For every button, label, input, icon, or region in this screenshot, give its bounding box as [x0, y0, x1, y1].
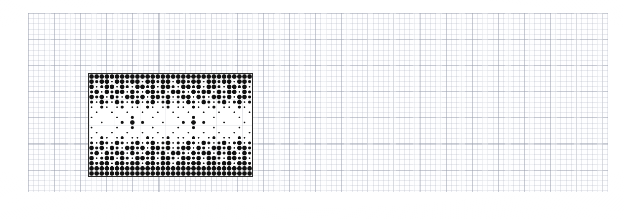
dot-matrix-canvas	[89, 74, 252, 176]
dot-matrix-block	[88, 73, 253, 177]
scanned-page	[0, 0, 624, 219]
